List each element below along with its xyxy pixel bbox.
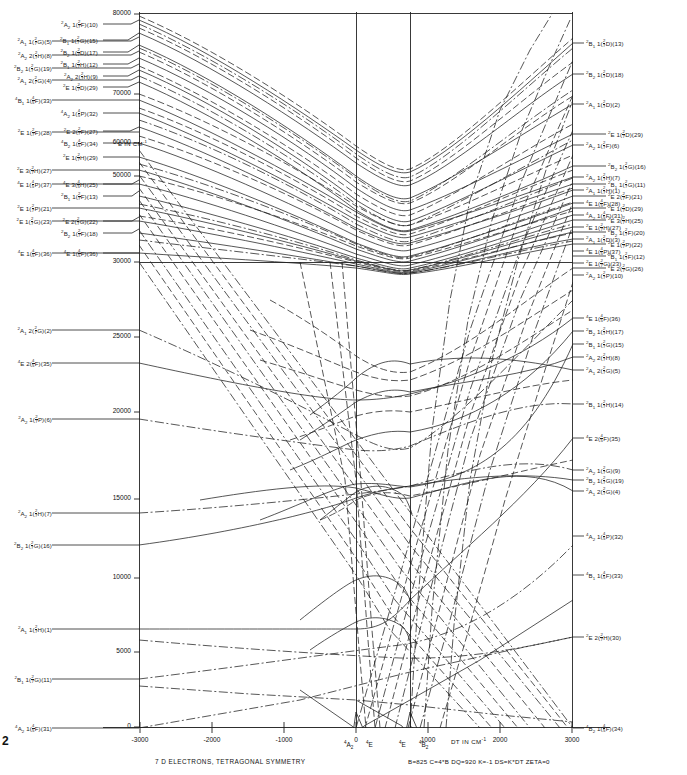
term-index: 1(: [595, 40, 602, 47]
term-free-ion-letter: H): [80, 61, 87, 68]
term-level-number: (2): [44, 327, 52, 334]
term-index: 1(: [595, 572, 602, 579]
term-label-right: 2B2 1(27G)(19): [586, 476, 624, 485]
term-label-left: 4E 2(45F)(35): [0, 359, 52, 368]
y-tick-0: 0: [89, 722, 131, 729]
term-level-number: (27): [41, 167, 52, 174]
term-label-inner-left: 2E 1(27D)(29): [0, 83, 98, 92]
term-level-number: (25): [87, 181, 98, 188]
term-index: 1(: [595, 236, 602, 243]
term-label-right: 2A1 2(27G)(4): [586, 487, 620, 496]
term-level-number: (32): [612, 533, 623, 540]
term-level-number: (18): [612, 71, 623, 78]
y-tick-15000: 15000: [89, 494, 131, 501]
crossing-label-4A2: 4A2: [344, 740, 353, 750]
term-index: 1(: [24, 97, 31, 104]
crossing-label-4E-left: 4E: [366, 740, 373, 748]
term-index: 1(: [593, 248, 600, 255]
curve-group-steep-descending-dashed: [139, 162, 568, 728]
curve-group-steep-ascending: [356, 60, 573, 728]
term-label-inner-left: 2B2 1(27F)(18): [0, 229, 98, 238]
term-index: 1(: [70, 84, 77, 91]
ground-state-crossing-lines: [139, 600, 573, 740]
term-level-number: (29): [87, 84, 98, 91]
term-index: 2(: [27, 327, 34, 334]
term-label-right: 2B1 1(27H)(14): [586, 400, 624, 409]
energy-axis-note-exponent: -1: [143, 139, 148, 144]
term-index: 3(: [70, 181, 77, 188]
term-index: 1(: [24, 205, 31, 212]
term-index: 1(: [595, 272, 602, 279]
term-label-right: 2B2 1(27H)(17): [586, 327, 624, 336]
y-tick-25000: 25000: [89, 332, 131, 339]
term-level-number: (16): [41, 542, 52, 549]
term-label-inner-left: 2A2 1(27F)(10): [0, 20, 98, 29]
term-level-number: (33): [612, 572, 623, 579]
term-level-number: (13): [87, 193, 98, 200]
term-index: 2(: [593, 435, 600, 442]
term-level-number: (17): [612, 328, 623, 335]
term-free-ion-letter: G): [606, 367, 613, 374]
term-level-number: (36): [87, 250, 98, 257]
term-level-number: (17): [87, 49, 98, 56]
term-label-inner-left: 4B2 1(45F)(34): [0, 139, 98, 148]
term-level-number: (13): [612, 40, 623, 47]
term-free-ion-letter: D): [80, 84, 87, 91]
term-level-number: (29): [632, 131, 643, 138]
term-index: 1(: [70, 49, 77, 56]
term-level-number: (2): [612, 101, 620, 108]
term-index: 1(: [70, 230, 77, 237]
term-index: 2(: [70, 128, 77, 135]
term-level-number: (21): [41, 205, 52, 212]
term-level-number: (26): [632, 265, 643, 272]
term-level-number: (11): [41, 676, 52, 683]
term-label-inner-left: 2E 2(27G)(22): [0, 217, 98, 226]
term-free-ion-letter: G): [606, 477, 613, 484]
term-label-inner-left: 4E 3(45H)(25): [0, 180, 98, 189]
term-free-ion-letter: H): [80, 181, 87, 188]
term-label-right: 2B1 1(27G)(15): [586, 340, 624, 349]
term-index: 3(: [24, 167, 31, 174]
term-label-right: 2A2 1(27G)(9): [586, 466, 620, 475]
term-free-ion-letter: H): [603, 634, 610, 641]
term-level-number: (34): [87, 140, 98, 147]
term-level-number: (12): [87, 61, 98, 68]
term-level-number: (21): [631, 193, 642, 200]
term-level-number: (7): [44, 510, 52, 517]
y-tick-10000: 10000: [89, 573, 131, 580]
term-index: 1(: [595, 212, 602, 219]
term-level-number: (27): [87, 128, 98, 135]
x-axis-title-text: DT IN CM: [451, 738, 482, 745]
term-label-left: 4A2 1(45F)(31): [0, 724, 52, 733]
term-free-ion-letter: G): [606, 467, 613, 474]
term-label-inner-left: 2A2 2(27H)(9): [0, 72, 98, 81]
term-free-ion-letter: H): [625, 217, 632, 224]
term-index: 2(: [595, 354, 602, 361]
term-level-number: (29): [87, 154, 98, 161]
term-level-number: (19): [613, 477, 624, 484]
term-free-ion-letter: D): [80, 49, 87, 56]
x-tick-3000: 3000: [552, 736, 592, 743]
term-level-number: (8): [612, 354, 620, 361]
term-index: 1(: [595, 187, 602, 194]
term-index: 1(: [69, 37, 76, 44]
term-label-right: 2E 1(27D)(29): [608, 130, 643, 139]
term-index: 1(: [24, 676, 31, 683]
term-level-number: (11): [635, 181, 646, 188]
energy-level-diagram-plot: [0, 0, 687, 775]
term-label-right: 4B2 1(45F)(34): [586, 724, 623, 733]
term-label-left: 2B1 1(27G)(11): [0, 675, 52, 684]
term-index: 1(: [70, 154, 77, 161]
term-level-number: (16): [635, 163, 646, 170]
term-index: 1(: [617, 163, 624, 170]
figure-caption: 7 D ELECTRONS, TETRAGONAL SYMMETRY: [155, 758, 305, 765]
term-index: 1(: [595, 467, 602, 474]
term-level-number: (35): [609, 435, 620, 442]
figure-parameters: B=825 C=4*B DQ=920 K=-1 DS=K*DT ZETA=0: [408, 758, 550, 765]
crossing-sym: E: [369, 741, 373, 748]
term-label-right: 4E 2(45F)(35): [586, 434, 620, 443]
term-label-left: 2B2 1(27G)(16): [0, 541, 52, 550]
curve-group-mid-solid: [139, 318, 573, 629]
term-label-inner-left: 2E 1(27H)(29): [0, 153, 98, 162]
term-label-inner-left: 4A2 1(45P)(32): [0, 109, 98, 118]
